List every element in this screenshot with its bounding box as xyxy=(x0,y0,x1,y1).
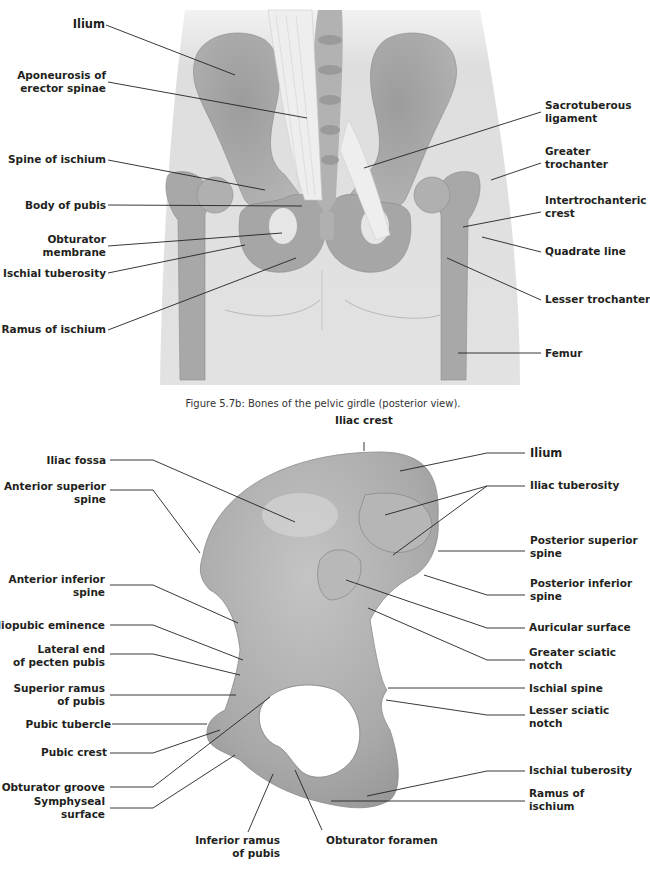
label-anterior-superior-spine: Anterior superior spine xyxy=(4,480,106,506)
label-iliac-fossa: Iliac fossa xyxy=(47,454,106,467)
label-line: Greater xyxy=(545,145,608,158)
label-line: spine xyxy=(530,547,638,560)
label-quadrate-line: Quadrate line xyxy=(545,245,626,258)
label-line: Obturator xyxy=(43,233,106,246)
label-line: notch xyxy=(529,717,609,730)
label-lateral-end-pecten-pubis: Lateral end of pecten pubis xyxy=(13,643,105,669)
label-posterior-superior-spine: Posterior superior spine xyxy=(530,534,638,560)
figure-hip-bone: Iliac crest Iliac fossa Anterior superio… xyxy=(0,420,646,870)
label-line: crest xyxy=(545,207,647,220)
label-obturator-groove: Obturator groove xyxy=(2,781,105,794)
label-iliopubic-eminence: Iliopubic eminence xyxy=(0,619,105,632)
label-femur: Femur xyxy=(545,347,582,360)
label-line: Greater sciatic xyxy=(529,646,616,659)
label-line: of pecten pubis xyxy=(13,656,105,669)
label-superior-ramus-pubis: Superior ramus of pubis xyxy=(14,682,105,708)
label-symphyseal-surface: Symphyseal surface xyxy=(34,795,105,821)
label-posterior-inferior-spine: Posterior inferior spine xyxy=(530,577,632,603)
label-iliac-crest: Iliac crest xyxy=(335,414,393,427)
label-line: spine xyxy=(9,586,106,599)
figure-caption: Figure 5.7b: Bones of the pelvic girdle … xyxy=(0,398,646,409)
label-line: Aponeurosis of xyxy=(17,69,106,82)
label-line: spine xyxy=(530,590,632,603)
label-body-of-pubis: Body of pubis xyxy=(25,199,106,212)
label-ischial-tuberosity: Ischial tuberosity xyxy=(3,267,106,280)
label-ilium-bottom: Ilium xyxy=(530,447,562,460)
label-line: Inferior ramus xyxy=(195,834,280,847)
label-line: Intertrochanteric xyxy=(545,194,647,207)
label-lesser-trochanter: Lesser trochanter xyxy=(545,293,650,306)
label-ischial-spine: Ischial spine xyxy=(529,682,603,695)
label-lesser-sciatic-notch: Lesser sciatic notch xyxy=(529,704,609,730)
label-line: of pubis xyxy=(14,695,105,708)
label-pubic-tubercle: Pubic tubercle xyxy=(26,718,111,731)
label-spine-of-ischium: Spine of ischium xyxy=(8,153,106,166)
label-line: Posterior inferior xyxy=(530,577,632,590)
label-line: Lateral end xyxy=(13,643,105,656)
label-iliac-tuberosity: Iliac tuberosity xyxy=(530,479,619,492)
label-line: Posterior superior xyxy=(530,534,638,547)
label-intertrochanteric-crest: Intertrochanteric crest xyxy=(545,194,647,220)
label-line: membrane xyxy=(43,246,106,259)
label-line: Sacrotuberous xyxy=(545,99,632,112)
label-line: Superior ramus xyxy=(14,682,105,695)
label-inferior-ramus-pubis: Inferior ramus of pubis xyxy=(195,834,280,860)
label-ilium: Ilium xyxy=(73,18,105,31)
label-line: surface xyxy=(34,808,105,821)
label-line: of pubis xyxy=(195,847,280,860)
label-auricular-surface: Auricular surface xyxy=(529,621,631,634)
label-ramus-of-ischium: Ramus of ischium xyxy=(2,323,107,336)
label-pubic-crest: Pubic crest xyxy=(41,746,107,759)
label-line: Anterior superior xyxy=(4,480,106,493)
label-ischial-tuberosity-bottom: Ischial tuberosity xyxy=(529,764,632,777)
label-line: ligament xyxy=(545,112,632,125)
label-line: erector spinae xyxy=(17,82,106,95)
label-obturator-foramen: Obturator foramen xyxy=(326,834,438,847)
label-aponeurosis-erector-spinae: Aponeurosis of erector spinae xyxy=(17,69,106,95)
label-greater-trochanter: Greater trochanter xyxy=(545,145,608,171)
label-ramus-of-ischium-bottom: Ramus of ischium xyxy=(529,787,584,813)
label-line: ischium xyxy=(529,800,584,813)
label-line: Symphyseal xyxy=(34,795,105,808)
label-anterior-inferior-spine: Anterior inferior spine xyxy=(9,573,106,599)
label-line: trochanter xyxy=(545,158,608,171)
label-line: Ramus of xyxy=(529,787,584,800)
label-sacrotuberous-ligament: Sacrotuberous ligament xyxy=(545,99,632,125)
figure-posterior-pelvis: Ilium Aponeurosis of erector spinae Spin… xyxy=(0,0,646,390)
label-line: Lesser sciatic xyxy=(529,704,609,717)
label-line: notch xyxy=(529,659,616,672)
label-line: spine xyxy=(4,493,106,506)
label-obturator-membrane: Obturator membrane xyxy=(43,233,106,259)
label-line: Anterior inferior xyxy=(9,573,106,586)
label-greater-sciatic-notch: Greater sciatic notch xyxy=(529,646,616,672)
